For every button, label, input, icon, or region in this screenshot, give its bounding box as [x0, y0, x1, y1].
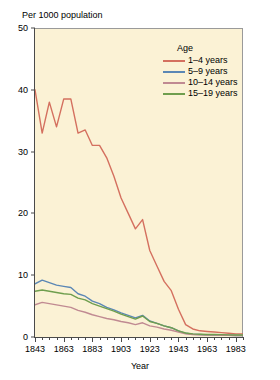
- y-tick-label: 50: [2, 23, 28, 33]
- x-tick-mark-major: [35, 338, 36, 342]
- legend-item: 15–19 years: [163, 88, 238, 99]
- x-tick-label: 1943: [168, 344, 188, 354]
- legend: Age 1–4 years5–9 years10–14 years15–19 y…: [163, 43, 238, 99]
- x-tick-mark-major: [178, 338, 179, 342]
- legend-color-swatch: [163, 71, 185, 73]
- x-tick-mark-minor: [243, 338, 244, 340]
- legend-item: 5–9 years: [163, 66, 238, 77]
- y-tick-label: 0: [2, 332, 28, 342]
- x-tick-label: 1863: [54, 344, 74, 354]
- x-axis-title: Year: [0, 361, 280, 371]
- legend-color-swatch: [163, 93, 185, 95]
- legend-entries: 1–4 years5–9 years10–14 years15–19 years: [163, 55, 238, 99]
- y-tick-label: 40: [2, 85, 28, 95]
- x-tick-mark-major: [236, 338, 237, 342]
- x-tick-label: 1903: [111, 344, 131, 354]
- x-tick-mark-minor: [193, 338, 194, 340]
- x-tick-mark-major: [207, 338, 208, 342]
- y-axis-title: Per 1000 population: [22, 10, 103, 20]
- x-tick-mark-minor: [57, 338, 58, 340]
- series-line: [35, 280, 243, 335]
- legend-color-swatch: [163, 82, 185, 84]
- legend-title: Age: [177, 43, 238, 53]
- x-tick-mark-minor: [78, 338, 79, 340]
- x-tick-mark-minor: [157, 338, 158, 340]
- x-tick-mark-minor: [143, 338, 144, 340]
- x-tick-mark-minor: [229, 338, 230, 340]
- legend-item-label: 1–4 years: [188, 55, 228, 66]
- x-tick-mark-minor: [221, 338, 222, 340]
- legend-color-swatch: [163, 60, 185, 62]
- x-tick-mark-major: [92, 338, 93, 342]
- series-line: [35, 90, 243, 334]
- x-tick-mark-minor: [49, 338, 50, 340]
- y-tick-label: 30: [2, 147, 28, 157]
- x-tick-mark-minor: [107, 338, 108, 340]
- x-tick-mark-major: [64, 338, 65, 342]
- x-tick-mark-minor: [71, 338, 72, 340]
- x-tick-mark-minor: [164, 338, 165, 340]
- x-tick-mark-minor: [42, 338, 43, 340]
- x-axis-line: [34, 337, 244, 338]
- series-line: [35, 290, 243, 335]
- x-tick-mark-minor: [135, 338, 136, 340]
- x-tick-mark-minor: [214, 338, 215, 340]
- x-tick-mark-minor: [186, 338, 187, 340]
- x-tick-mark-major: [121, 338, 122, 342]
- x-tick-label: 1843: [25, 344, 45, 354]
- y-tick-label: 10: [2, 270, 28, 280]
- y-tick-label: 20: [2, 208, 28, 218]
- legend-item: 1–4 years: [163, 55, 238, 66]
- x-tick-mark-minor: [200, 338, 201, 340]
- x-tick-label: 1963: [197, 344, 217, 354]
- legend-item-label: 5–9 years: [188, 66, 228, 77]
- x-tick-label: 1883: [82, 344, 102, 354]
- x-tick-mark-minor: [128, 338, 129, 340]
- legend-item-label: 15–19 years: [188, 88, 238, 99]
- x-tick-mark-minor: [100, 338, 101, 340]
- chart-figure: Per 1000 population 01020304050 18431863…: [0, 0, 280, 380]
- x-tick-mark-minor: [171, 338, 172, 340]
- x-tick-mark-major: [150, 338, 151, 342]
- x-tick-label: 1983: [226, 344, 246, 354]
- x-tick-mark-minor: [85, 338, 86, 340]
- legend-item-label: 10–14 years: [188, 77, 238, 88]
- x-tick-label: 1923: [140, 344, 160, 354]
- legend-item: 10–14 years: [163, 77, 238, 88]
- series-line: [35, 302, 243, 335]
- x-tick-mark-minor: [114, 338, 115, 340]
